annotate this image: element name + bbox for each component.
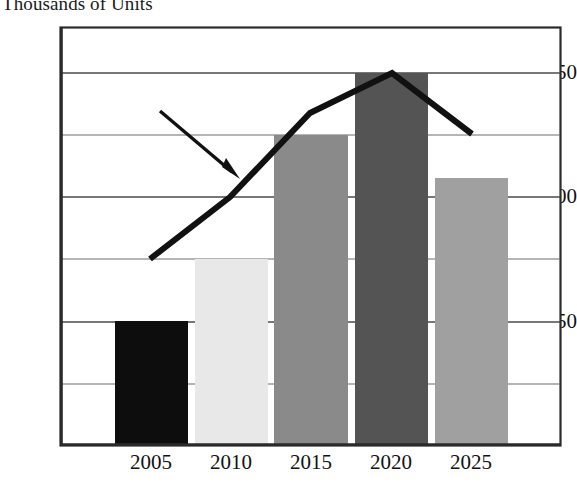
x-axis-tick-2015: 2015 [266, 450, 356, 475]
bar-2005 [115, 321, 188, 445]
bar-2020 [355, 73, 428, 445]
x-axis-tick-2010: 2010 [186, 450, 276, 475]
bar-2010 [195, 259, 268, 445]
x-axis-tick-2025: 2025 [426, 450, 516, 475]
chart-container: Thousands of Units 150 100 50 Plant Capa… [0, 0, 577, 486]
bar-2025 [435, 178, 508, 445]
x-axis-tick-2005: 2005 [106, 450, 196, 475]
x-axis-tick-2020: 2020 [346, 450, 436, 475]
bar-2015 [274, 135, 348, 445]
plot-area [0, 0, 577, 486]
